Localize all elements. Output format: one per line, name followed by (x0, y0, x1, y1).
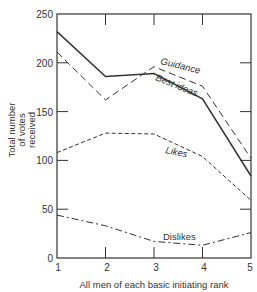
y-tick-50: 50 (42, 204, 54, 215)
series-line-dislikes (57, 215, 251, 245)
series-line-likes (57, 133, 251, 200)
x-tick-labels: 1 2 3 4 5 (55, 262, 253, 273)
x-tick-4: 4 (201, 262, 207, 273)
label-guidance: Guidance (160, 55, 202, 76)
y-tick-150: 150 (36, 107, 53, 118)
series-line-guidance (57, 52, 251, 158)
x-ticks (106, 14, 203, 258)
series-line-best-ideas (57, 32, 251, 176)
plot-frame (57, 14, 251, 258)
x-tick-2: 2 (104, 262, 110, 273)
y-tick-100: 100 (36, 155, 53, 166)
x-tick-1: 1 (55, 262, 61, 273)
y-axis-title: Total number of votes received (6, 103, 37, 158)
votes-line-chart: 0 50 100 150 200 250 1 2 3 4 5 All men o… (0, 0, 257, 292)
y-axis-title-line-3: received (26, 112, 37, 148)
y-ticks-right (240, 63, 251, 209)
label-best-ideas: Best ideas (154, 72, 199, 99)
chart-svg: 0 50 100 150 200 250 1 2 3 4 5 All men o… (0, 0, 257, 292)
y-tick-0: 0 (47, 253, 53, 264)
y-tick-250: 250 (36, 9, 53, 20)
x-tick-5: 5 (247, 262, 253, 273)
y-tick-labels: 0 50 100 150 200 250 (36, 9, 53, 264)
label-dislikes: Dislikes (163, 231, 196, 242)
label-likes: Likes (165, 144, 189, 159)
y-tick-200: 200 (36, 58, 53, 69)
x-axis-title: All men of each basic initiating rank (80, 279, 229, 290)
y-ticks-left (57, 63, 68, 209)
x-tick-3: 3 (153, 262, 159, 273)
